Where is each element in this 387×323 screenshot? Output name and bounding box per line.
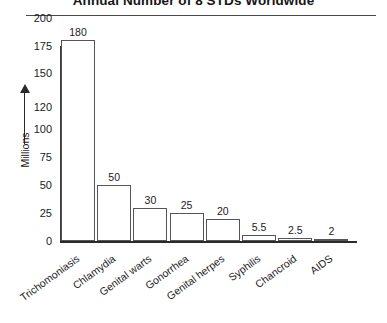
- y-axis-tick-label: 175: [22, 41, 52, 52]
- y-axis-tick-label: 200: [22, 13, 52, 24]
- bar: [61, 40, 95, 241]
- chart-title: Annual Number of 8 STDs Worldwide: [0, 0, 387, 8]
- y-axis-tick-label: 0: [22, 236, 52, 247]
- y-axis-tick-label: 25: [22, 208, 52, 219]
- up-arrow-icon: [20, 84, 30, 93]
- bar: [170, 213, 204, 241]
- y-axis-tick-label: 120: [22, 102, 52, 113]
- chart-figure: Annual Number of 8 STDs Worldwide Millio…: [0, 0, 387, 323]
- bar: [278, 238, 312, 241]
- y-axis-tick-label: 100: [22, 124, 52, 135]
- bar-value-label: 50: [89, 172, 139, 183]
- bar-value-label: 2: [306, 226, 356, 237]
- y-axis-tick-label: 150: [22, 68, 52, 79]
- x-axis-line: [60, 241, 357, 243]
- bar-value-label: 180: [53, 27, 103, 38]
- title-divider: [26, 15, 376, 16]
- bar-value-label: 20: [198, 206, 248, 217]
- bar: [314, 239, 348, 242]
- bar: [133, 208, 167, 241]
- y-axis-tick-label: 50: [22, 180, 52, 191]
- y-axis-tick-label: 75: [22, 152, 52, 163]
